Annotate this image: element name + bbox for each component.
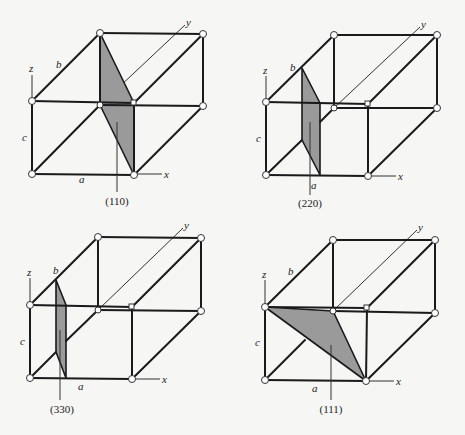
lattice-point: [365, 101, 370, 106]
panel-110: y z x a b c (110): [22, 16, 207, 208]
z-label: z: [26, 266, 32, 278]
lattice-point: [432, 310, 439, 317]
lattice-point: [365, 173, 372, 180]
z-label: z: [261, 268, 267, 280]
lattice-point: [29, 171, 36, 178]
a-label: a: [311, 179, 317, 191]
lattice-point: [262, 304, 269, 311]
lattice-point: [263, 172, 270, 179]
z-label: z: [28, 62, 34, 74]
c-label: c: [255, 336, 260, 348]
plane-caption: (110): [105, 195, 129, 208]
lattice-point: [200, 31, 207, 38]
panel-111: y z x a b c (111): [255, 221, 439, 416]
miller-planes-figure: y z x a b c (110): [0, 0, 465, 435]
lattice-point: [434, 32, 441, 39]
y-label: y: [185, 16, 191, 28]
plane-caption: (330): [50, 403, 74, 416]
lattice-point: [131, 100, 136, 105]
a-label: a: [79, 173, 85, 185]
lattice-point: [95, 234, 102, 241]
c-label: c: [20, 335, 25, 347]
plane-caption: (111): [319, 403, 342, 416]
x-label: x: [395, 375, 401, 387]
z-label: z: [262, 64, 268, 76]
lattice-point: [95, 307, 101, 313]
lattice-point: [198, 235, 205, 242]
lattice-point: [198, 308, 205, 315]
plane-caption: (220): [298, 197, 322, 210]
lattice-point: [262, 377, 269, 384]
c-label: c: [22, 131, 27, 143]
x-label: x: [397, 170, 403, 182]
y-label: y: [183, 219, 189, 231]
lattice-point: [331, 32, 338, 39]
b-label: b: [53, 264, 59, 276]
lattice-point: [129, 304, 134, 309]
plane-111: [265, 307, 366, 381]
lattice-point: [27, 375, 34, 382]
lattice-point: [97, 102, 103, 108]
x-label: x: [163, 168, 169, 180]
lattice-point: [129, 376, 136, 383]
panel-220: y z x a b c (220): [256, 18, 441, 210]
b-label: b: [290, 61, 296, 73]
y-label: y: [417, 221, 423, 233]
lattice-point: [263, 99, 270, 106]
a-label: a: [78, 380, 84, 392]
lattice-point: [434, 105, 441, 112]
lattice-point: [97, 30, 104, 37]
panel-330: y z x a b c (330): [20, 219, 205, 416]
lattice-point: [330, 308, 336, 314]
a-label: a: [312, 382, 318, 394]
lattice-point: [432, 237, 439, 244]
b-label: b: [56, 58, 62, 70]
lattice-point: [364, 305, 369, 310]
plane-220: [302, 68, 320, 175]
lattice-point: [363, 378, 370, 385]
x-label: x: [161, 373, 167, 385]
plane-330: [56, 280, 66, 378]
unit-cell-edges: [266, 35, 437, 176]
lattice-point: [131, 172, 138, 179]
lattice-point: [331, 105, 337, 111]
lattice-point: [29, 98, 36, 105]
b-label: b: [288, 265, 294, 277]
lattice-point: [200, 103, 207, 110]
c-label: c: [256, 132, 261, 144]
y-label: y: [420, 18, 426, 30]
lattice-point: [330, 237, 337, 244]
lattice-point: [27, 302, 34, 309]
